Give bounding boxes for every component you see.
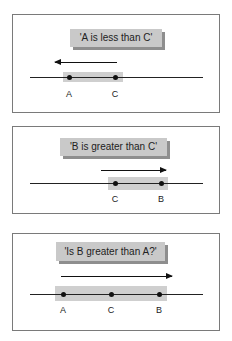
point-dot-c [113, 75, 118, 80]
arrow-left-icon [55, 62, 117, 63]
point-label-a: A [64, 89, 74, 99]
statement-box: 'A is less than C' [70, 29, 162, 47]
point-dot-b [157, 292, 162, 297]
panel-is-b-greater-than-a: 'Is B greater than A?' A C B [12, 233, 220, 331]
point-label-b: B [156, 194, 166, 204]
arrow-right-icon [61, 276, 172, 277]
point-dot-c [113, 181, 118, 186]
point-label-c: C [110, 194, 120, 204]
arrow-right-icon [101, 170, 166, 171]
statement-text: 'B is greater than C' [70, 141, 157, 152]
statement-box: 'Is B greater than A?' [56, 242, 165, 261]
point-dot-a [61, 292, 66, 297]
point-label-b: B [154, 305, 164, 315]
point-label-a: A [58, 305, 68, 315]
point-label-c: C [106, 305, 116, 315]
point-dot-b [159, 181, 164, 186]
statement-text: 'Is B greater than A?' [64, 246, 156, 257]
statement-box: 'B is greater than C' [60, 138, 167, 156]
point-dot-a [67, 75, 72, 80]
number-line [30, 294, 203, 295]
point-dot-c [109, 292, 114, 297]
statement-text: 'A is less than C' [80, 32, 153, 43]
panel-a-less-than-c: 'A is less than C' A C [12, 14, 220, 113]
point-label-c: C [110, 89, 120, 99]
panel-b-greater-than-c: 'B is greater than C' C B [12, 126, 220, 214]
